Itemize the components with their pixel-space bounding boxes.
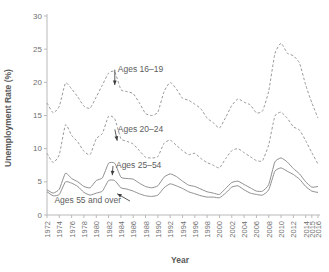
y-tick-label: 0 — [38, 211, 43, 220]
x-axis-title: Year — [171, 255, 190, 265]
x-tick-label: 2010 — [277, 221, 286, 238]
annotation-arrowhead-ages-25-54 — [111, 171, 115, 176]
x-tick-label: 1988 — [142, 221, 151, 238]
x-tick-label: 2006 — [252, 221, 261, 238]
x-tick-label: 1984 — [117, 221, 126, 238]
x-tick-label: 2000 — [215, 221, 224, 238]
x-tick-label: 1986 — [129, 221, 138, 238]
x-tick-label: 1974 — [55, 221, 64, 238]
x-tick-label: 1992 — [166, 221, 175, 238]
series-lines — [47, 43, 318, 198]
x-tick-label: 2016 — [314, 221, 323, 238]
x-tick-label: 2008 — [265, 221, 274, 238]
annotation-arrowhead-ages-20-24 — [114, 136, 118, 141]
x-tick-label: 1994 — [179, 221, 188, 238]
annotation-label-ages-20-24: Ages 20–24 — [118, 124, 164, 134]
series-line-ages-16-19 — [47, 43, 318, 128]
y-axis-title: Unemployment Rate (%) — [3, 69, 13, 167]
x-tick-label: 2002 — [228, 221, 237, 238]
y-tick-label: 15 — [33, 111, 42, 120]
x-tick-label: 1990 — [154, 221, 163, 238]
y-tick-label: 10 — [33, 144, 42, 153]
x-tick-label: 1972 — [43, 221, 52, 238]
y-tick-label: 5 — [38, 177, 43, 186]
x-tick-label: 1978 — [80, 221, 89, 238]
y-axis: 051015202530 — [33, 12, 47, 220]
x-tick-label: 1980 — [92, 221, 101, 238]
chart-canvas: 051015202530 197219741976197819801982198… — [0, 0, 329, 272]
series-line-ages-55-and-over — [47, 168, 318, 198]
y-tick-label: 30 — [33, 12, 42, 21]
x-tick-label: 1996 — [191, 221, 200, 238]
y-tick-label: 20 — [33, 78, 42, 87]
series-annotations: Ages 16–19Ages 20–24Ages 25–54Ages 55 an… — [54, 64, 163, 205]
annotation-arrowhead-ages-16-19 — [113, 81, 117, 85]
x-tick-label: 1976 — [68, 221, 77, 238]
x-tick-label: 1982 — [105, 221, 114, 238]
annotation-label-ages-16-19: Ages 16–19 — [118, 64, 164, 74]
unemployment-rate-line-chart: 051015202530 197219741976197819801982198… — [0, 0, 329, 272]
annotation-label-ages-25-54: Ages 25–54 — [116, 160, 162, 170]
x-tick-label: 2004 — [240, 221, 249, 238]
x-tick-label: 1998 — [203, 221, 212, 238]
x-tick-label: 2012 — [289, 221, 298, 238]
y-tick-label: 25 — [33, 45, 42, 54]
annotation-label-ages-55-and-over: Ages 55 and over — [54, 195, 121, 205]
x-axis: 1972197419761978198019821984198619881990… — [43, 215, 323, 238]
